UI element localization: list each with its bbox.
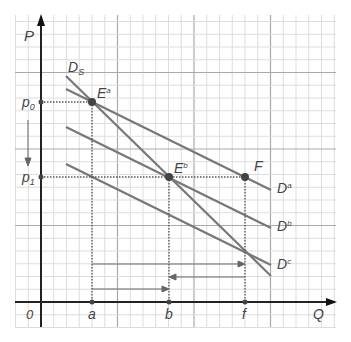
arrowhead-right-icon [162,286,169,292]
tick-dot-b [167,300,172,305]
curve-label-db: Db [277,218,292,234]
y-axis-arrow-icon [37,14,45,26]
supply-demand-diagram: P Q 0 p0 p1 a b f Ea Eb F DS Da Db Dc [0,0,351,342]
curve-label-da: Da [277,180,292,196]
point-label-ea: Ea [97,85,111,101]
tick-dot-f [243,300,248,305]
point-f [241,173,249,181]
tick-dot-a [90,300,95,305]
y-axis-label: P [24,27,34,44]
tick-label-p0: p0 [21,94,35,112]
tick-label-b: b [165,306,173,322]
point-label-eb: Eb [174,160,188,176]
point-eb [165,173,173,181]
curve-label-dc: Dc [277,256,291,272]
arrowhead-right-icon [238,261,245,267]
x-axis-arrow-icon [326,298,337,306]
origin-label: 0 [26,307,34,322]
tick-label-f: f [242,306,248,322]
tick-dot-p1 [39,175,44,180]
point-ea [88,98,96,106]
point-label-f: F [254,158,264,174]
tick-dot-p0 [39,100,44,105]
curve-label-ds: DS [68,59,84,77]
arrowhead-left-icon [169,274,176,280]
tick-label-a: a [88,306,96,322]
tick-label-p1: p1 [21,169,35,187]
x-axis-label: Q [313,306,324,322]
